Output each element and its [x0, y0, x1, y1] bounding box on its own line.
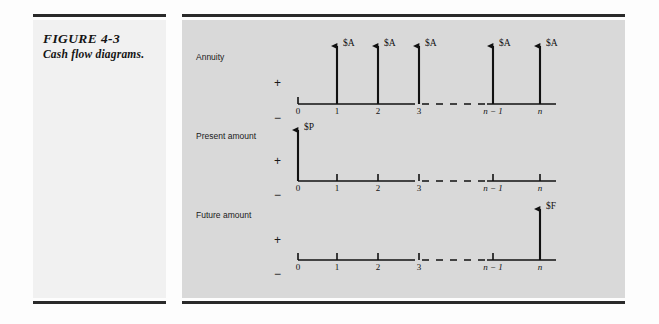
annuity-tick-0: 0 [290, 106, 306, 116]
cash-flow-diagrams-svg [182, 20, 625, 298]
annuity-amount-3: $A [425, 38, 437, 48]
diagram-annuity [298, 46, 556, 104]
future-amount-label: $F [546, 201, 556, 211]
future-tick-2: 2 [370, 262, 386, 272]
present-tick-3: 3 [411, 183, 427, 193]
figure-body: Annuity + − 0 1 2 3 n − 1 n $A $A $A $A … [182, 20, 625, 298]
annuity-tick-n: n [532, 106, 548, 116]
figure-bottom-rule [182, 301, 625, 304]
annuity-tick-1: 1 [329, 106, 345, 116]
future-tick-n-minus-1: n − 1 [475, 262, 511, 272]
figure-panel: Annuity + − 0 1 2 3 n − 1 n $A $A $A $A … [182, 14, 625, 304]
present-tick-n: n [532, 183, 548, 193]
present-minus-sign: − [274, 188, 281, 202]
diagram-future-amount [298, 209, 556, 260]
future-tick-3: 3 [411, 262, 427, 272]
annuity-amount-n: $A [546, 38, 558, 48]
present-tick-1: 1 [329, 183, 345, 193]
annuity-plus-sign: + [274, 76, 281, 90]
figure-top-rule [182, 14, 625, 17]
present-tick-0: 0 [290, 183, 306, 193]
figure-number: FIGURE 4-3 [43, 31, 120, 47]
figure-page: FIGURE 4-3 Cash flow diagrams. [0, 0, 659, 324]
caption-body: FIGURE 4-3 Cash flow diagrams. [33, 20, 166, 298]
annuity-amount-2: $A [384, 38, 396, 48]
diagram-present-amount [298, 130, 556, 181]
annuity-amount-n-minus-1: $A [499, 38, 511, 48]
figure-title: Cash flow diagrams. [43, 48, 144, 60]
annuity-minus-sign: − [274, 111, 281, 125]
present-amount-label: $P [304, 122, 314, 132]
present-tick-n-minus-1: n − 1 [475, 183, 511, 193]
annuity-tick-3: 3 [411, 106, 427, 116]
annuity-tick-2: 2 [370, 106, 386, 116]
annuity-amount-1: $A [343, 38, 355, 48]
caption-top-rule [33, 14, 166, 17]
caption-bottom-rule [33, 301, 166, 304]
future-tick-0: 0 [290, 262, 306, 272]
future-tick-1: 1 [329, 262, 345, 272]
diagram-label-present-amount: Present amount [196, 131, 256, 141]
present-tick-2: 2 [370, 183, 386, 193]
future-minus-sign: − [274, 267, 281, 281]
present-plus-sign: + [274, 154, 281, 168]
annuity-tick-n-minus-1: n − 1 [475, 106, 511, 116]
diagram-label-annuity: Annuity [196, 52, 224, 62]
future-plus-sign: + [274, 233, 281, 247]
caption-panel: FIGURE 4-3 Cash flow diagrams. [33, 14, 166, 304]
future-tick-n: n [532, 262, 548, 272]
diagram-label-future-amount: Future amount [196, 210, 251, 220]
